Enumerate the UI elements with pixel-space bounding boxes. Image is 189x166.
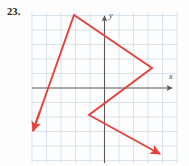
zigzag-tail-arrow (33, 111, 40, 131)
axes (32, 16, 172, 163)
figure-container: 23. (0, 0, 189, 166)
red-zigzag-path (33, 15, 160, 154)
zigzag-polyline (33, 15, 160, 154)
y-axis-label: y (108, 11, 113, 20)
coordinate-graph: x y (0, 0, 189, 166)
x-axis-label: x (168, 72, 173, 81)
